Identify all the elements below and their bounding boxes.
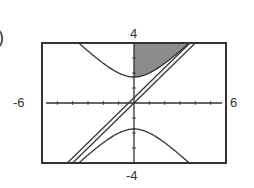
graph-plot: [0, 0, 254, 188]
shaded-region: [134, 43, 190, 77]
